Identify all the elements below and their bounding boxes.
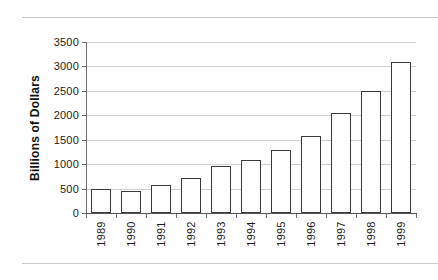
bar-1999 (391, 62, 411, 213)
y-tick-label: 500 (38, 182, 79, 196)
x-axis-tick (206, 214, 207, 218)
x-tick-label-text: 1994 (245, 221, 257, 246)
bar-1990 (121, 191, 141, 213)
bar-1991 (151, 185, 171, 213)
x-axis-tick (86, 214, 87, 218)
y-tick-label: 3000 (38, 59, 79, 73)
y-axis-tick (82, 42, 86, 43)
gridline (86, 42, 416, 43)
bar-1993 (211, 166, 231, 213)
x-tick-label-text: 1999 (395, 221, 407, 246)
x-tick-label-text: 1998 (365, 221, 377, 246)
x-axis-tick (116, 214, 117, 218)
x-tick-label-text: 1990 (125, 221, 137, 246)
y-axis-tick (82, 140, 86, 141)
y-axis-tick (82, 115, 86, 116)
y-axis-tick (82, 91, 86, 92)
y-axis-tick (82, 189, 86, 190)
x-tick-label-text: 1995 (275, 221, 287, 246)
y-tick-label: 2000 (38, 108, 79, 122)
bar-chart: Billions of Dollars 05001000150020002500… (0, 0, 438, 280)
x-tick-label-text: 1993 (215, 221, 227, 246)
y-tick-label: 3500 (38, 35, 79, 49)
y-tick-label: 2500 (38, 84, 79, 98)
page: Billions of Dollars 05001000150020002500… (0, 0, 438, 280)
bottom-page-rule (22, 263, 438, 264)
y-tick-label: 1000 (38, 157, 79, 171)
x-axis-tick (386, 214, 387, 218)
plot-area (86, 42, 416, 213)
x-axis-tick (176, 214, 177, 218)
x-tick-label-text: 1992 (185, 221, 197, 246)
bar-1994 (241, 160, 261, 213)
x-tick-label-text: 1996 (305, 221, 317, 246)
x-axis-tick (356, 214, 357, 218)
bar-1992 (181, 178, 201, 213)
x-axis-tick (326, 214, 327, 218)
y-axis-tick (82, 66, 86, 67)
x-tick-label-text: 1997 (335, 221, 347, 246)
x-tick-label-text: 1991 (155, 221, 167, 246)
y-axis-tick (82, 164, 86, 165)
y-tick-label: 1500 (38, 133, 79, 147)
x-axis-tick (416, 214, 417, 218)
bar-1995 (271, 150, 291, 213)
gridline (86, 66, 416, 67)
bar-1989 (91, 189, 111, 213)
x-axis-line (86, 213, 417, 214)
y-axis-line (86, 42, 87, 214)
bar-1997 (331, 113, 351, 213)
x-axis-tick (146, 214, 147, 218)
x-axis-tick (296, 214, 297, 218)
y-tick-label: 0 (38, 206, 79, 220)
x-tick-label-text: 1989 (95, 221, 107, 246)
x-axis-tick (236, 214, 237, 218)
bar-1996 (301, 136, 321, 213)
bar-1998 (361, 91, 381, 213)
x-axis-tick (266, 214, 267, 218)
